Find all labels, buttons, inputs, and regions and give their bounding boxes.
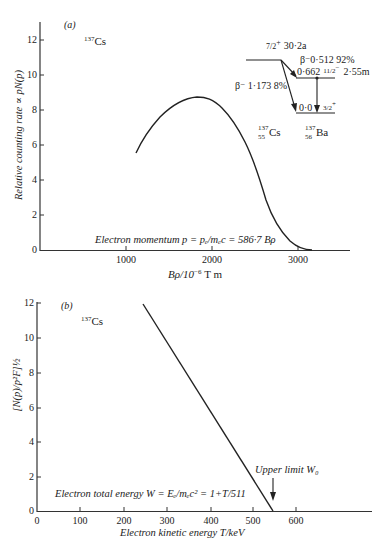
cs-symbol: 137 55 Cs bbox=[258, 124, 281, 141]
svg-text:137: 137 bbox=[258, 124, 269, 132]
x-tick-label: 100 bbox=[73, 515, 88, 526]
arrow-head-icon bbox=[291, 103, 297, 112]
down-arrow-icon bbox=[270, 492, 276, 501]
y-tick-label: 4 bbox=[29, 436, 34, 447]
level-0-spin: 3/2+ bbox=[323, 100, 336, 112]
svg-text:137: 137 bbox=[305, 124, 316, 132]
nuclide-label-b: 137Cs bbox=[81, 315, 103, 327]
x-tick-label: 0 bbox=[35, 515, 40, 526]
ba-symbol: 137 56 Ba bbox=[305, 124, 328, 141]
y-tick-label: 4 bbox=[32, 174, 37, 185]
x-axis-label-a: Bρ/10−6 T m bbox=[168, 268, 223, 280]
level-0: 0·0 bbox=[299, 102, 312, 113]
y-tick-label: 0 bbox=[32, 244, 37, 255]
y-axis-label-a: Relative counting rate ∝ pN(p) bbox=[13, 69, 25, 201]
branch-8: β⁻ 1·173 8% bbox=[235, 80, 287, 91]
branch-92: β⁻0·512 92% bbox=[300, 54, 355, 65]
y-axis-label-b: [N(p)/p²F]½ bbox=[11, 358, 23, 411]
x-ticks-b bbox=[80, 507, 296, 511]
y-tick-label: 2 bbox=[32, 209, 37, 220]
x-tick-label: 400 bbox=[204, 515, 219, 526]
y-tick-label: 6 bbox=[32, 139, 37, 150]
y-tick-label: 10 bbox=[27, 69, 37, 80]
y-tick-label: 12 bbox=[27, 34, 37, 45]
panel-label-b: (b) bbox=[61, 300, 73, 312]
y-tick-label: 10 bbox=[24, 332, 34, 343]
gamma-arrow-icon bbox=[314, 105, 320, 113]
momentum-annotation: Electron momentum p = pₑ/mₑc = 586·7 Bρ bbox=[94, 234, 276, 245]
figure: 0 2 4 6 8 10 12 1000 2000 3000 Bρ/10−6 T… bbox=[0, 0, 383, 539]
y-tick-label: 12 bbox=[24, 297, 34, 308]
x-tick-label: 1000 bbox=[116, 254, 136, 265]
svg-text:Ba: Ba bbox=[316, 126, 328, 138]
nuclide-label-a: 137Cs bbox=[84, 35, 106, 47]
y-tick-label: 6 bbox=[29, 402, 34, 413]
y-tick-label: 8 bbox=[32, 104, 37, 115]
kurie-line bbox=[143, 304, 273, 511]
spectrum-curve bbox=[136, 97, 312, 250]
decay-scheme: 7/2+30·2a β⁻0·512 92% 0·66211/2−2·55m β⁻… bbox=[235, 38, 370, 141]
panel-b: 0 2 4 6 8 10 12 0 100 200 300 400 500 60… bbox=[11, 297, 372, 538]
x-tick-label: 500 bbox=[246, 515, 261, 526]
x-tick-label: 600 bbox=[289, 515, 304, 526]
parent-spin: 7/2+30·2a bbox=[266, 38, 307, 51]
x-tick-label: 300 bbox=[160, 515, 175, 526]
energy-annotation: Electron total energy W = Eₑ/mₑc² = 1+T/… bbox=[54, 488, 246, 499]
x-tick-label: 200 bbox=[117, 515, 132, 526]
level-662: 0·66211/2−2·55m bbox=[297, 64, 370, 77]
y-tick-label: 2 bbox=[29, 471, 34, 482]
svg-text:56: 56 bbox=[305, 133, 313, 141]
x-ticks-a bbox=[126, 246, 298, 250]
x-tick-label: 2000 bbox=[202, 254, 222, 265]
svg-text:Cs: Cs bbox=[269, 126, 281, 138]
x-axis-label-b: Electron kinetic energy T/keV bbox=[119, 527, 246, 538]
upper-limit-label: Upper limit W₀ bbox=[255, 464, 319, 475]
svg-text:55: 55 bbox=[258, 133, 266, 141]
panel-label-a: (a) bbox=[64, 19, 76, 31]
panel-a: 0 2 4 6 8 10 12 1000 2000 3000 Bρ/10−6 T… bbox=[13, 19, 370, 280]
x-tick-label: 3000 bbox=[288, 254, 308, 265]
y-tick-label: 8 bbox=[29, 367, 34, 378]
y-tick-label: 0 bbox=[29, 505, 34, 516]
